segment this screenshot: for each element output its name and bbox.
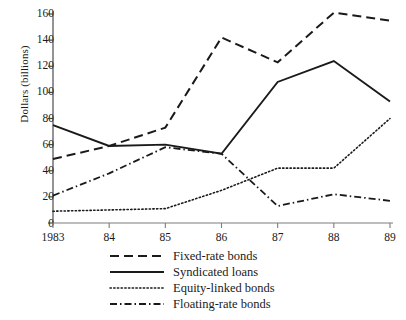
legend-swatch-solid-icon <box>110 266 164 278</box>
line-chart: Dollars (billions) 160 140 120 100 80 60… <box>0 0 406 320</box>
legend-item-syndicated-loans: Syndicated loans <box>110 264 400 280</box>
x-tick-label: 85 <box>160 232 172 244</box>
series-line <box>53 61 390 154</box>
x-tick-label: 87 <box>272 232 284 244</box>
legend-label: Syndicated loans <box>173 266 258 279</box>
x-tick-label: 86 <box>216 232 228 244</box>
series-line <box>53 13 390 159</box>
x-axis-ticks <box>53 223 390 228</box>
axis-lines <box>53 11 393 223</box>
x-tick-label: 84 <box>103 232 115 244</box>
legend-label: Fixed-rate bonds <box>173 250 257 263</box>
legend-item-floating-rate-bonds: Floating-rate bonds <box>110 296 400 312</box>
legend-item-equity-linked-bonds: Equity-linked bonds <box>110 280 400 296</box>
chart-legend: Fixed-rate bonds Syndicated loans Equity… <box>110 248 400 312</box>
legend-label: Floating-rate bonds <box>173 298 271 311</box>
x-tick-label: 1983 <box>42 232 65 244</box>
legend-item-fixed-rate-bonds: Fixed-rate bonds <box>110 248 400 264</box>
x-tick-label: 89 <box>384 232 396 244</box>
y-axis-ticks <box>48 14 53 223</box>
series-line <box>53 147 390 206</box>
series-line <box>53 119 390 212</box>
x-tick-label: 88 <box>328 232 340 244</box>
legend-label: Equity-linked bonds <box>173 282 275 295</box>
legend-swatch-dotted-icon <box>110 282 164 294</box>
data-series-layer <box>53 13 390 212</box>
legend-swatch-dashed-icon <box>110 250 164 262</box>
legend-swatch-dash-dot-icon <box>110 298 164 310</box>
